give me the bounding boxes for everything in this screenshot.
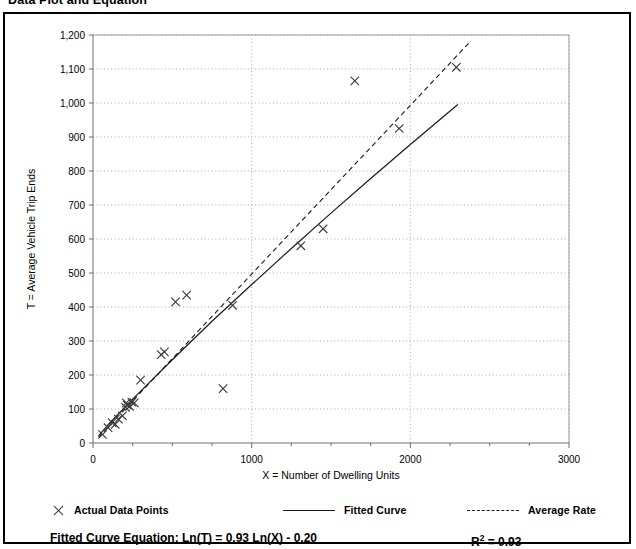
- svg-text:0: 0: [90, 454, 96, 465]
- dashed-line-icon: [467, 510, 519, 511]
- legend-item-fitted-curve: Fitted Curve: [283, 498, 406, 522]
- equation-row: Fitted Curve Equation: Ln(T) = 0.93 Ln(X…: [5, 526, 633, 549]
- r-squared-number: = 0.93: [488, 535, 522, 549]
- figure-panel: 01002003004005006007008009001,0001,1001,…: [3, 12, 631, 544]
- x-axis-title: X = Number of Dwelling Units: [262, 469, 399, 481]
- x-marker-icon: [52, 504, 65, 517]
- y-axis-tick-labels: 01002003004005006007008009001,0001,1001,…: [60, 30, 85, 449]
- svg-text:400: 400: [68, 302, 85, 313]
- x-axis-tick-labels: 0100020003000: [90, 454, 580, 465]
- solid-line-icon: [283, 510, 335, 511]
- r-squared-value: R2 = 0.93: [471, 526, 521, 549]
- legend-label-actual-data-points: Actual Data Points: [74, 504, 169, 516]
- r-squared-symbol: R: [471, 535, 480, 549]
- page-title: Data Plot and Equation: [8, 0, 147, 7]
- legend-label-fitted-curve: Fitted Curve: [344, 504, 406, 516]
- svg-text:200: 200: [68, 370, 85, 381]
- svg-text:2000: 2000: [399, 454, 422, 465]
- legend-label-average-rate: Average Rate: [528, 504, 596, 516]
- svg-text:900: 900: [68, 132, 85, 143]
- svg-text:800: 800: [68, 166, 85, 177]
- svg-text:600: 600: [68, 234, 85, 245]
- legend-item-actual-data-points: Actual Data Points: [52, 498, 169, 522]
- scatter-chart: 01002003004005006007008009001,0001,1001,…: [5, 14, 629, 484]
- fitted-curve-equation: Fitted Curve Equation: Ln(T) = 0.93 Ln(X…: [50, 526, 317, 549]
- svg-text:1,200: 1,200: [60, 30, 85, 41]
- svg-text:500: 500: [68, 268, 85, 279]
- svg-text:1,100: 1,100: [60, 64, 85, 75]
- y-axis-title: T = Average Vehicle Trip Ends: [25, 169, 37, 310]
- svg-text:1,000: 1,000: [60, 98, 85, 109]
- chart-legend: Actual Data Points Fitted Curve Average …: [5, 498, 633, 522]
- r-squared-exponent: 2: [480, 533, 485, 543]
- y-axis-ticks: [89, 35, 93, 443]
- svg-text:0: 0: [79, 438, 85, 449]
- x-axis-ticks: [93, 443, 569, 448]
- svg-text:100: 100: [68, 404, 85, 415]
- svg-text:3000: 3000: [558, 454, 581, 465]
- svg-text:300: 300: [68, 336, 85, 347]
- svg-text:1000: 1000: [241, 454, 264, 465]
- legend-item-average-rate: Average Rate: [467, 498, 596, 522]
- svg-text:700: 700: [68, 200, 85, 211]
